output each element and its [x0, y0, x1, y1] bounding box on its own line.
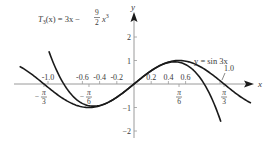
x-pi-tick-numerator: π	[42, 88, 46, 97]
x-tick-label: -1.0	[42, 73, 55, 82]
one-label-pointer	[222, 73, 225, 80]
x-pi-tick-numerator: π	[222, 88, 226, 97]
x-tick-label: -0.2	[110, 73, 123, 82]
y-tick-label: 1	[127, 57, 131, 66]
t3-frac-num: 9	[95, 8, 99, 17]
one-label: 1.0	[224, 64, 234, 73]
x-tick-label: -0.6	[76, 73, 89, 82]
x-tick-label: 0.6	[181, 73, 191, 82]
t3-frac-den: 2	[95, 18, 99, 27]
x-pi-tick-sign: −	[80, 92, 84, 101]
t3-formula-tail: x3	[101, 13, 109, 24]
y-tick-label: −2	[122, 127, 131, 136]
t3-formula-label: T3(x) = 3x −	[38, 14, 80, 25]
y-tick-label: −1	[122, 104, 131, 113]
x-pi-tick-denominator: 3	[42, 97, 46, 106]
x-axis-label: x	[257, 79, 262, 89]
x-pi-tick-denominator: 3	[222, 97, 226, 106]
y-tick-label: 2	[127, 33, 131, 42]
x-tick-label: 0.2	[146, 73, 156, 82]
chart-container: x y -1.0-0.6-0.4-0.20.20.40.6π3−π6−π6π32…	[0, 0, 271, 147]
y-axis-label: y	[130, 2, 135, 12]
chart-svg: x y -1.0-0.6-0.4-0.20.20.40.6π3−π6−π6π32…	[0, 0, 271, 147]
x-pi-tick-sign: −	[35, 92, 39, 101]
x-pi-tick-numerator: π	[87, 88, 91, 97]
x-pi-tick-numerator: π	[177, 88, 181, 97]
x-tick-label: 0.4	[163, 73, 173, 82]
x-tick-label: -0.4	[93, 73, 106, 82]
x-pi-tick-denominator: 6	[177, 97, 181, 106]
